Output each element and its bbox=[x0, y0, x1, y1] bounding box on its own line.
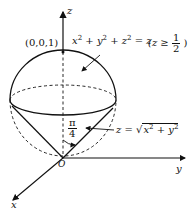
sphere-equation: x2 + y2 + z2 = z bbox=[72, 36, 152, 46]
sphere-condition: (z ≥ 12 ) bbox=[148, 33, 187, 54]
top-point bbox=[62, 51, 65, 54]
y-axis-label: y bbox=[176, 164, 182, 174]
origin-label: O bbox=[58, 160, 65, 169]
cone-pointer-arrow bbox=[86, 128, 114, 130]
x-axis-label: x bbox=[11, 200, 17, 210]
angle-arc bbox=[63, 140, 75, 145]
angle-label: π4 bbox=[68, 118, 77, 139]
x-axis bbox=[13, 158, 63, 200]
z-axis-label: z bbox=[67, 6, 72, 16]
diagram-canvas bbox=[0, 0, 195, 212]
cone-equation: z = √x2 + y2 bbox=[116, 125, 178, 135]
top-point-label: (0,0,1) bbox=[25, 38, 58, 48]
